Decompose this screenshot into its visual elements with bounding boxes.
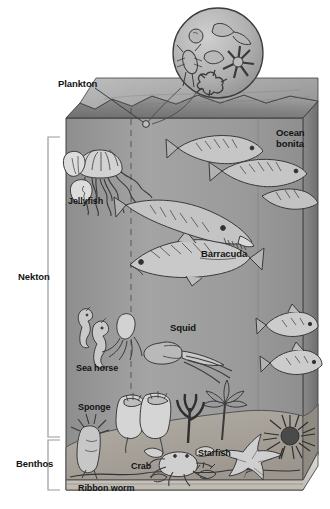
- label-ocean-bonita: Ocean bonita: [276, 128, 305, 149]
- zone-brackets: [48, 137, 60, 490]
- label-sponge: Sponge: [78, 402, 110, 412]
- label-ribbon-worm: Ribbon worm: [78, 483, 134, 493]
- label-plankton: Plankton: [58, 79, 97, 90]
- label-squid: Squid: [170, 323, 196, 334]
- label-crab: Crab: [131, 461, 151, 471]
- label-zone-benthos: Benthos: [16, 459, 53, 470]
- label-starfish: Starfish: [198, 448, 231, 458]
- plankton-cell: [189, 29, 203, 43]
- figure-canvas: Plankton Ocean bonita Jellyfish Barracud…: [0, 0, 330, 509]
- label-zone-nekton: Nekton: [18, 272, 50, 283]
- label-jellyfish: Jellyfish: [68, 196, 103, 206]
- ocean-zones-illustration: [0, 0, 330, 509]
- label-barracuda: Barracuda: [201, 249, 247, 260]
- nekton-bracket: [48, 137, 60, 437]
- plankton-point-marker: [143, 121, 150, 128]
- label-sea-horse: Sea horse: [76, 363, 118, 373]
